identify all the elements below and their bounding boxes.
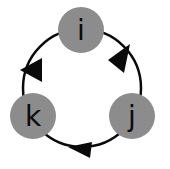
node-j-label: j xyxy=(127,100,136,133)
cycle-diagram: i j k xyxy=(0,0,170,169)
node-j: j xyxy=(109,93,155,139)
arrow-j-to-k-icon xyxy=(68,142,92,158)
node-k-label: k xyxy=(25,100,42,133)
node-i-label: i xyxy=(77,14,85,47)
node-k: k xyxy=(10,93,56,139)
node-i: i xyxy=(58,7,104,53)
arrow-i-to-j-icon xyxy=(108,44,130,73)
